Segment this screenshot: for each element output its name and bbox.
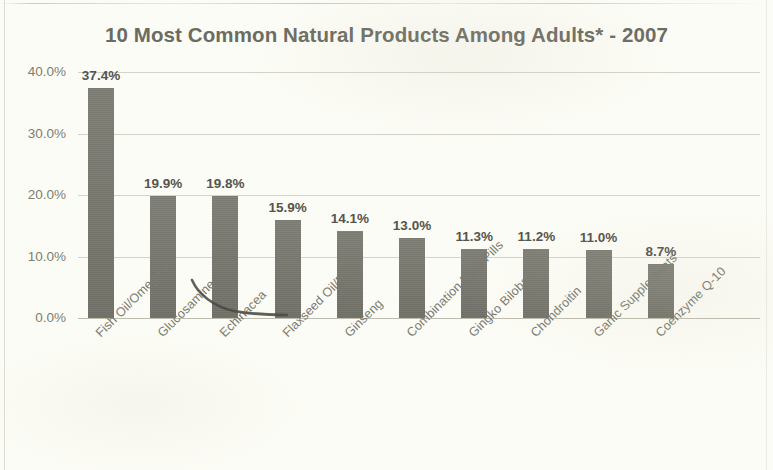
bar-value-label: 14.1% — [320, 211, 380, 226]
y-tick-label: 10.0% — [0, 249, 66, 264]
gridline-30.0 — [78, 134, 760, 135]
bar-value-label: 37.4% — [71, 68, 131, 83]
page-edge-right — [766, 0, 767, 470]
bar-value-label: 11.2% — [506, 229, 566, 244]
bar-value-label: 19.9% — [133, 176, 193, 191]
y-tick-label: 40.0% — [0, 64, 66, 79]
bar-value-label: 19.8% — [195, 176, 255, 191]
y-tick-label: 0.0% — [0, 310, 66, 325]
chart-title: 10 Most Common Natural Products Among Ad… — [0, 23, 773, 47]
scan-streak-artifact — [0, 3, 773, 4]
bar-value-label: 11.0% — [569, 230, 629, 245]
bar — [212, 196, 238, 318]
bar-value-label: 8.7% — [631, 244, 691, 259]
bar — [275, 220, 301, 318]
bar — [88, 88, 114, 318]
bar — [399, 238, 425, 318]
bar-value-label: 13.0% — [382, 218, 442, 233]
bar — [150, 196, 176, 318]
scanned-chart-page: 10 Most Common Natural Products Among Ad… — [0, 0, 773, 470]
y-tick-label: 30.0% — [0, 126, 66, 141]
bar-value-label: 15.9% — [258, 200, 318, 215]
bar — [586, 250, 612, 318]
gridline-40.0 — [78, 72, 760, 73]
gridline-20.0 — [78, 195, 760, 196]
y-tick-label: 20.0% — [0, 187, 66, 202]
